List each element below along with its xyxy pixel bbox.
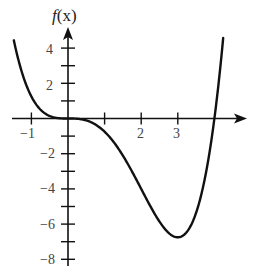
plot-area: f(x) −1 2 3 4 2 −2 −4 −6 −8 bbox=[0, 0, 254, 266]
x-tick-label-3: 3 bbox=[173, 126, 180, 141]
y-axis-title: f(x) bbox=[52, 6, 77, 25]
x-tick-label-neg1: −1 bbox=[20, 126, 35, 141]
y-tick-label-neg6: −6 bbox=[40, 217, 55, 232]
y-tick-label-neg4: −4 bbox=[40, 181, 55, 196]
function-curve bbox=[14, 38, 223, 237]
x-tick-label-2: 2 bbox=[137, 126, 144, 141]
y-tick-label-4: 4 bbox=[46, 42, 53, 57]
y-tick-label-neg8: −8 bbox=[40, 252, 55, 266]
function-graph: f(x) −1 2 3 4 2 −2 −4 −6 −8 bbox=[0, 0, 254, 266]
y-tick-label-neg2: −2 bbox=[40, 146, 55, 161]
y-tick-label-2: 2 bbox=[46, 78, 53, 93]
